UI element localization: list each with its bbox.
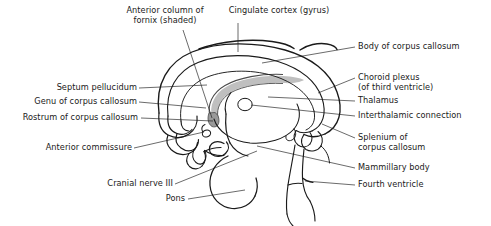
leader-splenium bbox=[322, 124, 355, 138]
leader-rostrum bbox=[141, 118, 213, 121]
label-anterior-commissure-line1: Anterior commissure bbox=[4, 143, 132, 153]
corpus-callosum-outer-outline bbox=[158, 44, 340, 137]
label-anterior-column-of-fornix-line2: fornix (shaded) bbox=[117, 16, 213, 26]
label-genu-of-corpus-callosum: Genu of corpus callosum bbox=[4, 97, 137, 107]
corpus-callosum-inner-outline bbox=[168, 56, 325, 133]
label-interthalamic-connection: Interthalamic connection bbox=[358, 111, 462, 121]
label-fourth-ventricle-line1: Fourth ventricle bbox=[358, 180, 424, 190]
label-rostrum-of-corpus-callosum-line1: Rostrum of corpus callosum bbox=[2, 113, 138, 123]
label-interthalamic-connection-line1: Interthalamic connection bbox=[358, 111, 462, 121]
label-thalamus-line1: Thalamus bbox=[358, 96, 398, 106]
label-septum-pellucidum: Septum pellucidum bbox=[4, 83, 137, 93]
label-septum-pellucidum-line1: Septum pellucidum bbox=[4, 83, 137, 93]
label-mammillary-body: Mammillary body bbox=[358, 163, 430, 173]
medulla-outline bbox=[287, 201, 315, 226]
label-cingulate-cortex-line1: Cingulate cortex (gyrus) bbox=[218, 6, 340, 16]
label-pons: Pons bbox=[120, 194, 185, 204]
label-body-of-corpus-callosum: Body of corpus callosum bbox=[358, 42, 460, 52]
brain-diagram-figure: Anterior column of fornix (shaded) Cingu… bbox=[0, 0, 491, 226]
interthalamic-connection-circle bbox=[238, 98, 252, 110]
pons-outline bbox=[210, 156, 257, 209]
label-cranial-nerve-iii-line1: Cranial nerve III bbox=[60, 179, 173, 189]
splenium-outline bbox=[294, 131, 322, 152]
label-cranial-nerve-iii: Cranial nerve III bbox=[60, 179, 173, 189]
label-rostrum-of-corpus-callosum: Rostrum of corpus callosum bbox=[2, 113, 138, 123]
label-thalamus: Thalamus bbox=[358, 96, 398, 106]
label-anterior-commissure: Anterior commissure bbox=[4, 143, 132, 153]
label-body-of-corpus-callosum-line1: Body of corpus callosum bbox=[358, 42, 460, 52]
leader-interthalamic-connection bbox=[251, 105, 355, 116]
leader-thalamus bbox=[268, 97, 355, 101]
label-splenium-of-corpus-callosum-line2: corpus callosum bbox=[358, 143, 425, 153]
label-pons-line1: Pons bbox=[120, 194, 185, 204]
leader-anterior-column-fornix bbox=[183, 30, 212, 118]
label-anterior-column-of-fornix: Anterior column of fornix (shaded) bbox=[117, 6, 213, 25]
label-cingulate-cortex: Cingulate cortex (gyrus) bbox=[218, 6, 340, 16]
leader-genu bbox=[139, 102, 206, 108]
label-genu-of-corpus-callosum-line1: Genu of corpus callosum bbox=[4, 97, 137, 107]
label-mammillary-body-line1: Mammillary body bbox=[358, 163, 430, 173]
leader-body-corpus-callosum bbox=[262, 47, 355, 63]
label-fourth-ventricle: Fourth ventricle bbox=[358, 180, 424, 190]
leader-anterior-commissure bbox=[134, 132, 204, 148]
label-choroid-plexus: Choroid plexus (of third ventricle) bbox=[358, 73, 433, 92]
label-splenium-of-corpus-callosum: Splenium of corpus callosum bbox=[358, 133, 425, 152]
label-choroid-plexus-line2: (of third ventricle) bbox=[358, 83, 433, 93]
leader-pons bbox=[188, 190, 245, 199]
